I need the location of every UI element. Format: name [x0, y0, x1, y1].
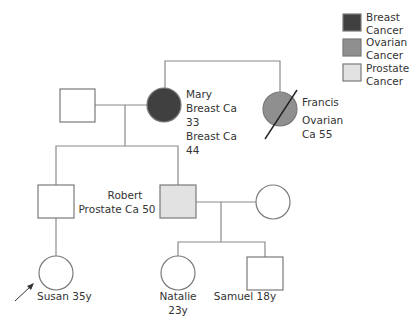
individual-susan	[39, 256, 73, 290]
legend-label-breast-2: Cancer	[366, 24, 404, 36]
individual-roberts-spouse	[256, 185, 290, 219]
sibship-line-gen3	[178, 242, 265, 257]
individual-robert	[160, 185, 196, 218]
mary-dx-2: Breast Ca	[186, 130, 237, 142]
legend-label-breast: Breast	[366, 11, 400, 23]
individual-samuel	[247, 257, 283, 290]
legend-swatch-prostate	[343, 64, 361, 81]
susan-label: Susan 35y	[37, 290, 92, 302]
individual-mary	[147, 88, 181, 122]
individual-grandfather	[60, 89, 95, 122]
robert-label: Robert Prostate Ca 50	[78, 189, 155, 215]
samuel-label: Samuel 18y	[214, 290, 276, 302]
legend-swatch-ovarian	[343, 39, 361, 56]
natalie-name: Natalie	[159, 290, 196, 302]
legend-label-ovarian: Ovarian	[366, 36, 407, 48]
proband-arrow-icon	[15, 283, 34, 301]
natalie-age: 23y	[168, 304, 188, 316]
individual-susans-father	[38, 185, 74, 218]
legend-label-prostate: Prostate	[366, 62, 409, 74]
individual-natalie	[161, 256, 195, 290]
legend: Breast Cancer Ovarian Cancer Prostate Ca…	[343, 11, 409, 87]
francis-name: Francis	[302, 96, 339, 108]
robert-dx: Prostate Ca 50	[78, 203, 155, 215]
legend-label-prostate-2: Cancer	[366, 75, 404, 87]
mary-name: Mary	[186, 88, 212, 100]
sibship-line-gen2	[56, 146, 178, 185]
legend-swatch-breast	[343, 14, 361, 31]
francis-dx: Ovarian	[302, 114, 343, 126]
mary-age-2: 44	[186, 144, 200, 156]
sibship-line-gen1	[165, 61, 280, 92]
robert-name: Robert	[108, 189, 143, 201]
francis-label: Francis Ovarian Ca 55	[302, 96, 343, 140]
francis-age: Ca 55	[302, 128, 332, 140]
legend-label-ovarian-2: Cancer	[366, 49, 404, 61]
mary-dx-1: Breast Ca	[186, 102, 237, 114]
mary-label: Mary Breast Ca 33 Breast Ca 44	[186, 88, 237, 156]
pedigree-diagram: Breast Cancer Ovarian Cancer Prostate Ca…	[0, 0, 418, 326]
mary-age-1: 33	[186, 116, 199, 128]
